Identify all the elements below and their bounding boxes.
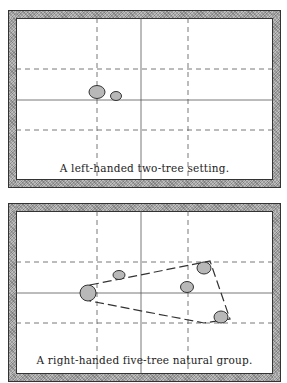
tree-icon xyxy=(111,92,122,101)
tree-icon xyxy=(113,271,125,280)
tree-icon xyxy=(89,86,105,99)
planting-grid-diagram xyxy=(16,18,273,180)
planting-grid-diagram xyxy=(16,211,273,374)
figure-frame-left-handed-two-tree: A left-handed two-tree setting. xyxy=(9,11,280,187)
figure-caption: A right-handed five-tree natural group. xyxy=(16,354,273,366)
tree-icon xyxy=(181,282,194,293)
tree-icon xyxy=(80,285,96,301)
figure-caption: A left-handed two-tree setting. xyxy=(16,162,273,174)
tree-icon xyxy=(197,262,211,274)
figure-frame-right-handed-five-tree: A right-handed five-tree natural group. xyxy=(9,204,280,381)
tree-icon xyxy=(214,311,228,323)
